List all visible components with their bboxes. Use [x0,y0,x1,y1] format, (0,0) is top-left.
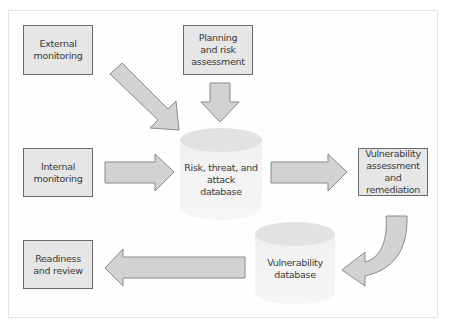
arrow-riskdb-to-vulnassessment [271,154,347,191]
planning-label: Planning and risk assessment [191,32,244,68]
vulnerability-assessment-label: Vulnerability assessment and remediation [359,148,427,196]
arrow-vulndb-to-readiness [105,249,245,286]
arrow-external-to-riskdb [110,63,179,130]
arrow-vulnassessment-to-vulndb [342,216,407,286]
arrow-internal-to-riskdb [105,154,174,191]
external-monitoring-node: External monitoring [23,25,93,75]
readiness-node: Readiness and review [23,240,93,289]
vulnerability-database-label: Vulnerability database [255,254,335,284]
risk-database-label: Risk, threat, and attack database [178,160,264,200]
arrow-planning-to-riskdb [201,83,239,122]
internal-monitoring-label: Internal monitoring [34,161,83,185]
internal-monitoring-node: Internal monitoring [23,148,93,197]
vulnerability-assessment-node: Vulnerability assessment and remediation [358,148,428,196]
external-monitoring-label: External monitoring [34,38,83,62]
planning-node: Planning and risk assessment [183,25,253,75]
readiness-label: Readiness and review [33,253,82,277]
